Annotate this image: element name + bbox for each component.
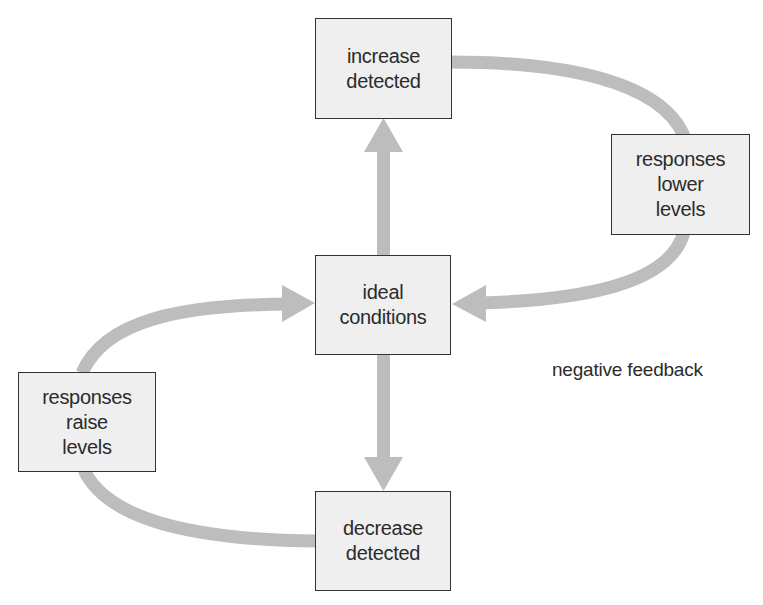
node-text: raise bbox=[66, 410, 108, 435]
node-text: responses bbox=[636, 147, 726, 172]
node-text: levels bbox=[656, 197, 705, 222]
arrow-ideal-to-decrease bbox=[364, 353, 403, 491]
node-text: increase bbox=[347, 44, 420, 69]
node-decrease-detected: decrease detected bbox=[315, 491, 451, 591]
diagram-title: negative feedback bbox=[552, 359, 703, 381]
node-text: lower bbox=[657, 172, 703, 197]
curve-increase-to-lower bbox=[451, 62, 684, 136]
node-text: detected bbox=[346, 69, 420, 94]
node-text: decrease bbox=[343, 516, 423, 541]
arrow-raise-to-ideal bbox=[82, 285, 315, 373]
node-text: detected bbox=[346, 541, 420, 566]
curve-decrease-to-raise bbox=[84, 470, 316, 541]
node-text: levels bbox=[62, 435, 111, 460]
node-text: conditions bbox=[339, 305, 426, 330]
node-responses-lower-levels: responses lower levels bbox=[611, 134, 750, 235]
arrow-lower-to-ideal bbox=[452, 232, 684, 322]
node-text: responses bbox=[42, 385, 132, 410]
node-ideal-conditions: ideal conditions bbox=[315, 255, 451, 355]
node-responses-raise-levels: responses raise levels bbox=[18, 372, 156, 472]
node-increase-detected: increase detected bbox=[315, 18, 452, 119]
arrow-ideal-to-increase bbox=[364, 118, 403, 256]
node-text: ideal bbox=[363, 280, 404, 305]
